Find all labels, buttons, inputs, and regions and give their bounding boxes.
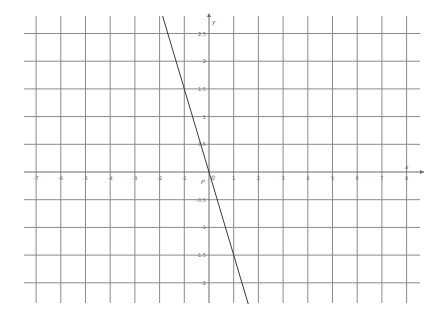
x-tick-label: 4 — [306, 175, 309, 181]
tick-labels: -7-6-5-4-3-2-112345678-2-1,5-1-0,50,511,… — [34, 31, 409, 286]
axis-labels: x y 0 P — [201, 18, 409, 185]
x-tick-label: 2 — [257, 175, 260, 181]
y-tick-label: 2 — [203, 58, 206, 64]
x-tick-label: -4 — [108, 175, 113, 181]
x-axis-arrow-icon — [420, 170, 424, 174]
x-tick-label: -7 — [34, 175, 39, 181]
y-tick-label: -2 — [201, 280, 206, 286]
x-tick-label: -6 — [58, 175, 63, 181]
y-tick-label: -1 — [201, 224, 206, 230]
x-tick-label: -1 — [182, 175, 187, 181]
y-axis-arrow-icon — [207, 13, 211, 17]
x-tick-label: -3 — [132, 175, 137, 181]
y-tick-label: 1,5 — [198, 86, 206, 92]
x-tick-label: 5 — [331, 175, 334, 181]
x-tick-label: -2 — [157, 175, 162, 181]
y-tick-label: -1,5 — [196, 252, 206, 258]
coordinate-plane-chart: -7-6-5-4-3-2-112345678-2-1,5-1-0,50,511,… — [0, 0, 433, 315]
x-tick-label: 1 — [232, 175, 235, 181]
y-tick-label: 0,5 — [198, 141, 206, 147]
y-tick-label: 2,5 — [198, 31, 206, 37]
y-tick-label: 1 — [203, 114, 206, 120]
x-tick-label: 7 — [380, 175, 383, 181]
x-axis-label: x — [404, 163, 409, 170]
y-tick-label: -0,5 — [196, 197, 206, 203]
x-tick-label: 8 — [405, 175, 408, 181]
grid-lines — [24, 16, 420, 303]
x-tick-label: 3 — [282, 175, 285, 181]
x-tick-label: 6 — [356, 175, 359, 181]
y-axis-label: y — [211, 18, 216, 26]
origin-label: 0 — [211, 174, 215, 181]
point-label: P — [201, 178, 205, 185]
x-tick-label: -5 — [83, 175, 88, 181]
axes — [24, 13, 424, 303]
